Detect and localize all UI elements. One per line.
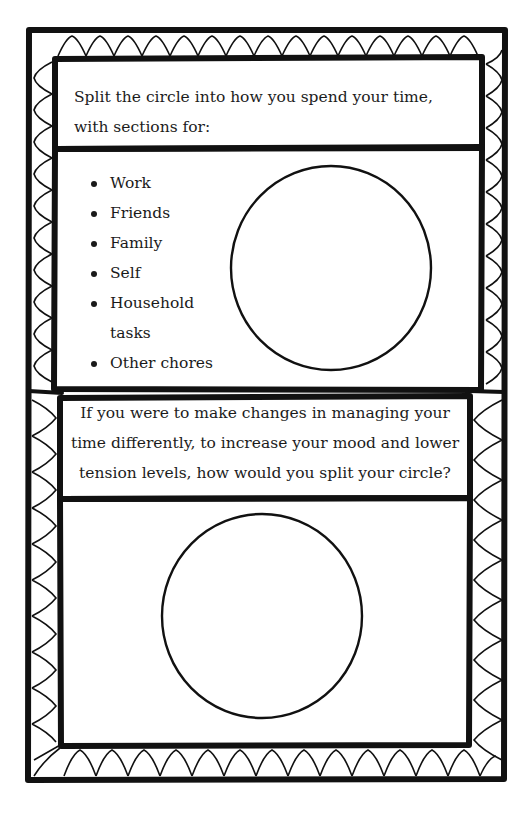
- instruction-2-line-2: time differently, to increase your mood …: [62, 428, 468, 458]
- list-item-other-chores: Other chores: [88, 348, 213, 378]
- list-item-household-tasks: Household tasks: [88, 288, 213, 348]
- instruction-text-2: If you were to make changes in managing …: [62, 398, 468, 488]
- instruction-2-line-1: If you were to make changes in managing …: [62, 398, 468, 428]
- scallop-top: [58, 36, 478, 56]
- list-item-work: Work: [88, 168, 213, 198]
- instruction-text-1: Split the circle into how you spend your…: [74, 82, 474, 142]
- category-list: Work Friends Family Self Household tasks…: [88, 168, 213, 378]
- instruction-2-line-3: tension levels, how would you split your…: [62, 458, 468, 488]
- worksheet-page: Split the circle into how you spend your…: [0, 0, 529, 816]
- instruction-1-line-1: Split the circle into how you spend your…: [74, 82, 474, 112]
- instruction-1-line-2: with sections for:: [74, 112, 474, 142]
- list-item-friends: Friends: [88, 198, 213, 228]
- list-item-self: Self: [88, 258, 213, 288]
- scallop-right: [474, 50, 502, 760]
- list-item-family: Family: [88, 228, 213, 258]
